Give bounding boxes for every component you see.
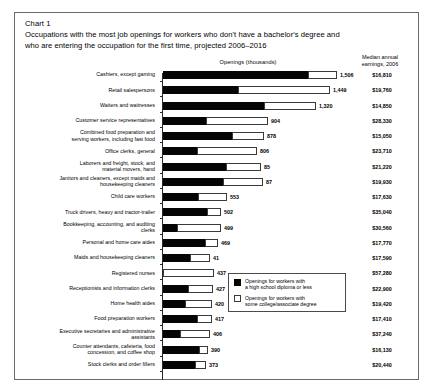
bar-segment-high-school: [163, 285, 188, 293]
bar-segment-high-school: [163, 163, 226, 171]
category-label: Truck drivers, heavy and tractor-trailer: [23, 209, 155, 215]
bar-value-label: 502: [224, 209, 233, 215]
bar-value-label: 437: [217, 270, 226, 276]
earnings-value: $17,410: [347, 316, 417, 322]
earnings-header-line-1: Median annual: [347, 54, 413, 61]
earnings-value: $14,850: [347, 103, 417, 109]
bar-segment-high-school: [163, 86, 238, 94]
axis-tick: [160, 356, 162, 357]
bar-segment-high-school: [163, 178, 223, 186]
axis-tick: [160, 142, 162, 143]
bar-segment-some-college: [264, 102, 316, 110]
legend-item: Openings for workers withsome college/as…: [234, 295, 340, 307]
bar-segment-some-college: [206, 117, 268, 125]
category-label-line: Customer service representatives: [23, 117, 155, 123]
axis-tick: [160, 157, 162, 158]
earnings-value: $28,330: [347, 118, 417, 124]
chart-number-label: Chart 1: [25, 19, 410, 29]
chart-screenshot: Chart 1 Occupations with the most job op…: [0, 0, 433, 392]
axis-tick: [160, 234, 162, 235]
earnings-value: $17,770: [347, 240, 417, 246]
category-label-line: Receptionists and information clerks: [23, 285, 155, 291]
bar-segment-high-school: [163, 224, 177, 232]
bar-segment-some-college: [199, 346, 208, 354]
category-label: Janitors and cleaners, except maids andh…: [23, 175, 155, 187]
axis-tick: [160, 218, 162, 219]
bar-segment-some-college: [180, 330, 210, 338]
category-label-line: Food preparation workers: [23, 315, 155, 321]
bar-segment-high-school: [163, 361, 195, 369]
category-label: Combined food preparation andserving wor…: [23, 129, 155, 141]
category-label-line: Personal and home care aides: [23, 239, 155, 245]
category-label: Laborers and freight, stock, andmaterial…: [23, 160, 155, 172]
earnings-value: $15,050: [347, 133, 417, 139]
earnings-value: $30,560: [347, 225, 417, 231]
earnings-value: $22,900: [347, 286, 417, 292]
legend-item: Openings for workers witha high school d…: [234, 278, 340, 290]
legend-label: Openings for workers withsome college/as…: [245, 295, 317, 307]
bar-value-label: 904: [271, 118, 280, 124]
bar-value-label: 85: [264, 164, 270, 170]
category-label-line: Child care workers: [23, 193, 155, 199]
category-label: Child care workers: [23, 193, 155, 199]
bar-segment-some-college: [232, 132, 264, 140]
category-label: Customer service representatives: [23, 117, 155, 123]
earnings-value: $23,710: [347, 148, 417, 154]
bar-segment-some-college: [190, 254, 210, 262]
earnings-value: $19,930: [347, 179, 417, 185]
earnings-value: $17,590: [347, 255, 417, 261]
bar-segment-some-college: [207, 208, 221, 216]
chart-frame: Chart 1 Occupations with the most job op…: [14, 12, 419, 380]
openings-column-header: Openings (thousands): [163, 59, 333, 65]
earnings-value: $16,810: [347, 72, 417, 78]
bar-value-label: 420: [215, 301, 224, 307]
bar-segment-high-school: [163, 330, 180, 338]
legend-label: Openings for workers witha high school d…: [245, 278, 312, 290]
bar-segment-some-college: [197, 147, 257, 155]
category-label-line: Stock clerks and order fillers: [23, 361, 155, 367]
legend-swatch-some-college-icon: [234, 295, 241, 302]
bar-value-label: 806: [260, 148, 269, 154]
bar-value-label: 427: [216, 286, 225, 292]
category-label: Home health aides: [23, 300, 155, 306]
bar-segment-high-school: [163, 208, 207, 216]
earnings-value: $35,040: [347, 209, 417, 215]
category-label: Registered nurses: [23, 270, 155, 276]
category-label-line: Waiters and waitresses: [23, 102, 155, 108]
bar-value-label: 87: [266, 179, 272, 185]
axis-tick: [160, 127, 162, 128]
category-label-line: clerks: [23, 227, 155, 233]
axis-tick: [160, 173, 162, 174]
category-label: Waiters and waitresses: [23, 102, 155, 108]
bar-segment-high-school: [163, 71, 308, 79]
axis-tick: [160, 340, 162, 341]
bar-segment-some-college: [177, 224, 221, 232]
category-label-line: Registered nurses: [23, 270, 155, 276]
axis-tick: [160, 96, 162, 97]
category-label-line: Cashiers, except gaming: [23, 71, 155, 77]
bar-segment-some-college: [185, 300, 212, 308]
bar-segment-some-college: [198, 193, 227, 201]
legend-label-line-2: some college/associate degree: [245, 301, 317, 307]
axis-tick: [160, 295, 162, 296]
category-label: Executive secretaries and administrative…: [23, 328, 155, 340]
axis-tick: [160, 188, 162, 189]
bar-segment-some-college: [188, 285, 213, 293]
bar-value-label: 878: [267, 133, 276, 139]
category-label-line: Maids and housekeeping cleaners: [23, 254, 155, 260]
category-label: Food preparation workers: [23, 315, 155, 321]
category-label-line: concession, and coffee shop: [23, 349, 155, 355]
category-label-line: Office clerks, general: [23, 148, 155, 154]
bar-value-label: 553: [230, 194, 239, 200]
axis-tick: [160, 264, 162, 265]
bar-value-label: 1,449: [333, 87, 347, 93]
chart-title-block: Chart 1 Occupations with the most job op…: [25, 19, 410, 51]
bar-segment-high-school: [163, 254, 190, 262]
bar-value-label: 417: [215, 316, 224, 322]
legend-label-line-2: a high school diploma or less: [245, 284, 312, 290]
category-label-line: Retail salespersons: [23, 87, 155, 93]
earnings-value: $19,760: [347, 87, 417, 93]
bar-segment-some-college: [197, 315, 212, 323]
axis-tick: [160, 325, 162, 326]
bar-value-label: 499: [224, 225, 233, 231]
